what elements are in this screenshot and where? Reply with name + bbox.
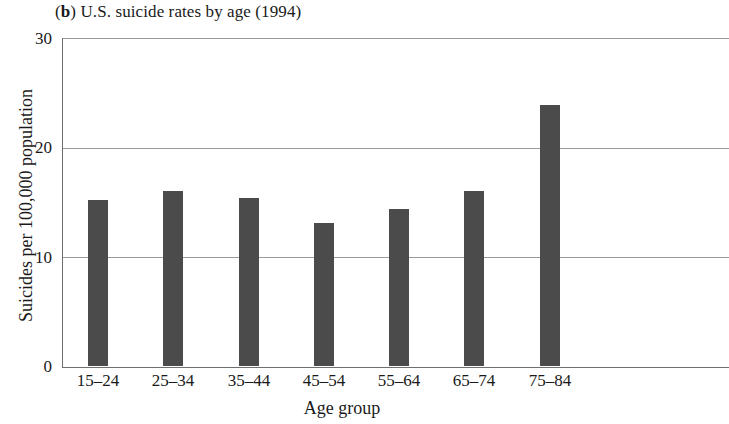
bar-45-54 — [314, 223, 334, 366]
bar-75-84 — [540, 105, 560, 366]
panel-letter: b — [61, 2, 71, 21]
bar-35-44 — [239, 198, 259, 366]
bar-55-64 — [389, 209, 409, 366]
x-axis-line — [62, 367, 729, 368]
y-tick-label-20: 20 — [8, 139, 52, 156]
y-axis-line — [62, 38, 63, 368]
y-axis-tick-labels: 30 20 10 0 — [0, 0, 52, 424]
y-tick-label-0: 0 — [8, 358, 52, 375]
bar-15-24 — [88, 200, 108, 366]
x-axis-title: Age group — [62, 398, 622, 419]
y-tick-label-30: 30 — [8, 30, 52, 47]
chart-title: (b) U.S. suicide rates by age (1994) — [55, 2, 301, 22]
bar-25-34 — [163, 191, 183, 366]
gridline-20 — [62, 148, 729, 149]
gridline-30 — [62, 38, 729, 39]
x-tick-label-75-84: 75–84 — [505, 372, 595, 389]
plot-area — [62, 38, 729, 367]
title-text: ) U.S. suicide rates by age (1994) — [70, 2, 301, 21]
bar-65-74 — [464, 191, 484, 366]
bar-chart-figure: (b) U.S. suicide rates by age (1994) Sui… — [0, 0, 729, 424]
y-tick-label-10: 10 — [8, 249, 52, 266]
